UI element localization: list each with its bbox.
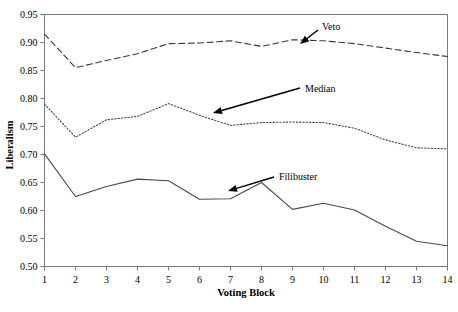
y-tick-label: 0.70 (20, 149, 38, 160)
x-tick-label: 10 (319, 274, 329, 285)
x-tick-label: 4 (135, 274, 140, 285)
series-line-median (45, 104, 448, 149)
y-tick-label: 0.80 (20, 93, 38, 104)
x-tick-label: 12 (381, 274, 391, 285)
annotation-label-median: Median (305, 83, 336, 94)
annotation-arrow-head (213, 107, 223, 114)
data-series-group (45, 34, 448, 246)
y-tick-label: 0.55 (20, 233, 38, 244)
x-tick-label: 11 (350, 274, 360, 285)
y-tick-label: 0.75 (20, 121, 38, 132)
y-tick-label: 0.95 (20, 9, 38, 20)
x-tick-label: 6 (197, 274, 202, 285)
y-axis-title: Liberalism (4, 120, 15, 169)
x-axis-ticks (45, 267, 448, 271)
annotation-arrow-head (228, 185, 238, 192)
y-tick-label: 0.50 (20, 261, 38, 272)
series-line-filibuster (45, 154, 448, 246)
annotation-label-filibuster: Filibuster (279, 171, 318, 182)
annotation-arrow-line (222, 88, 300, 111)
liberalism-voting-block-chart: 0.500.550.600.650.700.750.800.850.900.95… (0, 0, 458, 312)
annotation-arrow-line (237, 177, 274, 188)
x-axis-title: Voting Block (217, 287, 275, 298)
x-tick-label: 3 (104, 274, 109, 285)
y-tick-label: 0.90 (20, 37, 38, 48)
series-line-veto (45, 34, 448, 68)
x-tick-label: 5 (166, 274, 171, 285)
x-tick-label: 8 (259, 274, 264, 285)
y-tick-label: 0.60 (20, 205, 38, 216)
y-tick-label: 0.65 (20, 177, 38, 188)
annotation-label-veto: Veto (322, 21, 340, 32)
x-tick-label: 13 (412, 274, 422, 285)
chart-svg: 0.500.550.600.650.700.750.800.850.900.95… (0, 0, 458, 312)
x-tick-label: 9 (290, 274, 295, 285)
y-tick-label: 0.85 (20, 65, 38, 76)
x-tick-label: 7 (228, 274, 233, 285)
series-annotations: VetoMedianFilibuster (213, 21, 340, 192)
x-tick-labels: 1234567891011121314 (42, 274, 453, 285)
annotation-arrow-line (307, 30, 318, 38)
y-tick-labels: 0.500.550.600.650.700.750.800.850.900.95 (20, 9, 38, 272)
x-tick-label: 2 (73, 274, 78, 285)
x-tick-label: 14 (443, 274, 453, 285)
x-tick-label: 1 (42, 274, 47, 285)
y-axis-ticks (41, 15, 45, 267)
